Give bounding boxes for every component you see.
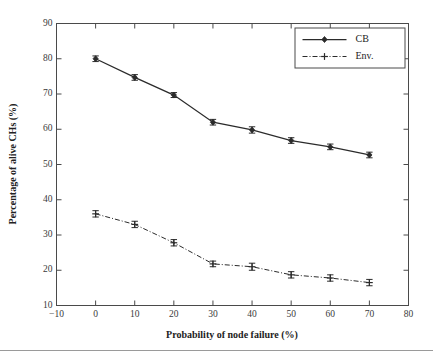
y-axis-title: Percentage of alive CHs (%) <box>7 104 19 225</box>
x-axis-title: Probability of node failure (%) <box>166 329 298 341</box>
data-point-plus <box>92 210 99 217</box>
chart-legend[interactable]: CBEnv. <box>295 28 405 68</box>
data-point-plus <box>366 279 373 286</box>
legend-box <box>295 28 405 68</box>
data-point-diamond <box>93 56 98 62</box>
legend-label: Env. <box>356 50 374 61</box>
data-point-plus <box>288 271 295 278</box>
y-tick-label: 50 <box>43 159 53 169</box>
x-tick-label: 30 <box>208 309 218 319</box>
x-tick-label: 10 <box>130 309 140 319</box>
x-tick-label: 50 <box>286 309 296 319</box>
x-tick-label: −10 <box>49 309 64 319</box>
y-tick-label: 80 <box>43 53 53 63</box>
y-tick-label: 30 <box>43 229 53 239</box>
y-tick-label: 90 <box>43 18 53 28</box>
data-point-plus <box>170 239 177 246</box>
series-layer <box>92 56 373 286</box>
x-tick-label: 0 <box>93 309 98 319</box>
x-tick-label: 60 <box>326 309 336 319</box>
data-point-diamond <box>328 144 333 150</box>
data-point-plus <box>327 275 334 282</box>
page-separator-rule <box>0 350 433 351</box>
data-point-diamond <box>289 138 294 144</box>
x-tick-label: 70 <box>365 309 375 319</box>
data-point-diamond <box>210 119 215 125</box>
data-point-plus <box>131 221 138 228</box>
y-tick-label: 10 <box>43 300 53 310</box>
series-line <box>96 59 370 155</box>
data-point-diamond <box>367 152 372 158</box>
series-cb <box>92 56 372 158</box>
x-tick-label: 40 <box>247 309 257 319</box>
x-tick-label: 20 <box>169 309 179 319</box>
legend-label: CB <box>356 33 370 44</box>
x-tick-label: 80 <box>404 309 414 319</box>
line-chart: −1001020304050607080 102030405060708090 … <box>0 0 433 354</box>
data-point-diamond <box>132 74 137 80</box>
y-tick-label: 40 <box>43 194 53 204</box>
data-point-diamond <box>249 127 254 133</box>
data-point-plus <box>249 263 256 270</box>
y-tick-label: 70 <box>43 88 53 98</box>
y-tick-label: 60 <box>43 123 53 133</box>
figure-container: −1001020304050607080 102030405060708090 … <box>0 0 433 354</box>
series-env <box>92 210 373 286</box>
y-tick-label: 20 <box>43 264 53 274</box>
